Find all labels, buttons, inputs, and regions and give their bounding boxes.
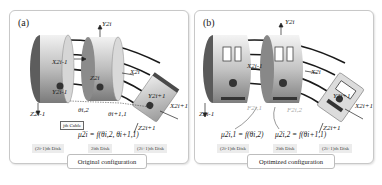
angle-label-theta-i2: θi,2 — [78, 107, 89, 114]
original-configuration-caption: Original configuration — [67, 154, 147, 169]
axis-label-y2i+1: Y2i+1 — [148, 93, 166, 100]
axis-label-x2i: X2i — [311, 69, 321, 76]
disk-label-right: (2i+1)th Disk — [319, 144, 352, 153]
axis-label-y2i: Y2i — [285, 19, 294, 26]
axis-label-y2i-1: Y2i-1 — [52, 89, 67, 96]
axis-label-y2i: Y2i — [102, 21, 111, 28]
axis-label-z2i: Z2i — [90, 75, 99, 82]
axis-label-x2i+1: X2i+1 — [170, 103, 188, 110]
panel-optimized-configuration: (b) — [194, 10, 374, 164]
axis-label-x2i: X2i — [130, 69, 140, 76]
friction-equation-right: μ2i,2 = f(θi+1,1) — [275, 130, 326, 139]
panel-original-configuration: (a) — [9, 10, 189, 164]
axis-label-z2i-1: Z2i-1 — [199, 111, 214, 118]
friction-equation: μ2i = f(θi,2, θi+1,1) — [78, 130, 139, 139]
axis-label-z2i+1: Z2i+1 — [138, 125, 156, 132]
disk-label-left: (2i-1)th Disk — [32, 144, 64, 153]
disk-label-middle: 2ith Disk — [88, 144, 112, 153]
axis-label-x2i+1: X2i+1 — [355, 103, 373, 110]
friction-equation-left: μ2i,1 = f(θi,2) — [221, 130, 264, 139]
angle-label-theta-i+1-1: θi+1,1 — [108, 111, 127, 118]
axis-label-x2i-1: X2i-1 — [247, 63, 263, 70]
optimized-continuum-robot-illustration — [195, 11, 373, 141]
optimized-configuration-caption: Optimized configuration — [247, 154, 335, 169]
disk-label-left: (2i-1)th Disk — [217, 144, 249, 153]
force-label-left: F2i,1 — [247, 105, 262, 112]
axis-label-z2i-1: Z2i-1 — [30, 111, 45, 118]
axis-label-x2i-1: X2i-1 — [52, 59, 68, 66]
cable-label: jth Cable — [60, 121, 84, 130]
disk-label-middle: 2ith Disk — [273, 144, 297, 153]
disk-label-right: (2i+1)th Disk — [134, 144, 167, 153]
axis-label-y2i+1: Y2i+1 — [333, 93, 351, 100]
force-label-right: F2i,2 — [287, 107, 302, 114]
